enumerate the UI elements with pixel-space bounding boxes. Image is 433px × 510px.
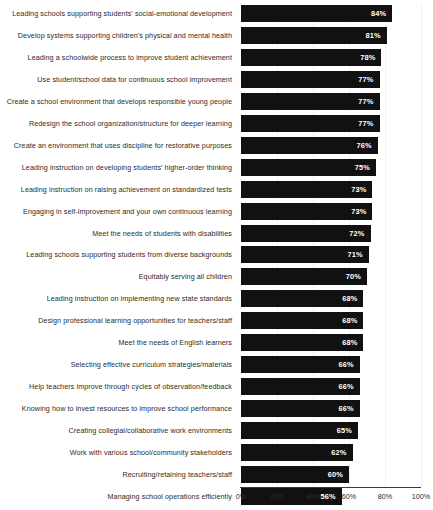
category-label: Engaging in self-improvement and your ow… (0, 203, 232, 220)
bar-track: 65% (241, 422, 421, 439)
bar-track: 71% (241, 246, 421, 263)
bar-row: Creating collegial/collaborative work en… (0, 422, 433, 439)
category-label: Equitably serving all children (0, 268, 232, 285)
bar-value-label: 70% (339, 268, 361, 285)
bar-value-label: 66% (332, 400, 354, 417)
category-label: Use student/school data for continuous s… (0, 71, 232, 88)
bar-row: Leading a schoolwide process to improve … (0, 49, 433, 66)
bar-value-label: 73% (344, 203, 366, 220)
bar-row: Redesign the school organization/structu… (0, 115, 433, 132)
bar-value-label: 78% (353, 49, 375, 66)
bar-row: Design professional learning opportuniti… (0, 312, 433, 329)
category-label: Create an environment that uses discipli… (0, 137, 232, 154)
bar-row: Recruiting/retaining teachers/staff60% (0, 466, 433, 483)
bar-row: Create a school environment that develop… (0, 93, 433, 110)
bar-value-label: 60% (321, 466, 343, 483)
category-label: Create a school environment that develop… (0, 93, 232, 110)
bar-track: 66% (241, 356, 421, 373)
x-axis-tick-labels: 0%20%40%60%80%100% (0, 492, 433, 506)
category-label: Redesign the school organization/structu… (0, 115, 232, 132)
bar-row: Selecting effective curriculum strategie… (0, 356, 433, 373)
bar-row: Meet the needs of English learners68% (0, 334, 433, 351)
bar-row: Engaging in self-improvement and your ow… (0, 203, 433, 220)
bar-track: 62% (241, 444, 421, 461)
category-label: Leading instruction on developing studen… (0, 159, 232, 176)
bar-row: Leading schools supporting students' soc… (0, 5, 433, 22)
bar-track: 77% (241, 93, 421, 110)
category-label: Design professional learning opportuniti… (0, 312, 232, 329)
bar-value-label: 68% (335, 334, 357, 351)
x-tick-label: 60% (329, 492, 369, 501)
bar-row: Leading schools supporting students from… (0, 246, 433, 263)
bar-row: Leading instruction on developing studen… (0, 159, 433, 176)
bar-value-label: 77% (352, 71, 374, 88)
category-label: Leading instruction on implementing new … (0, 290, 232, 307)
category-label: Selecting effective curriculum strategie… (0, 356, 232, 373)
bar-row: Meet the needs of students with disabili… (0, 225, 433, 242)
category-label: Develop systems supporting children's ph… (0, 27, 232, 44)
bar-value-label: 68% (335, 290, 357, 307)
bar-track: 72% (241, 225, 421, 242)
category-label: Meet the needs of English learners (0, 334, 232, 351)
bar-row: Equitably serving all children70% (0, 268, 433, 285)
category-label: Help teachers improve through cycles of … (0, 378, 232, 395)
category-label: Leading schools supporting students from… (0, 246, 232, 263)
bar-value-label: 77% (352, 115, 374, 132)
bar-track: 84% (241, 5, 421, 22)
bar-track: 60% (241, 466, 421, 483)
bar-value-label: 81% (359, 27, 381, 44)
bar-value-label: 65% (330, 422, 352, 439)
bar-track: 68% (241, 290, 421, 307)
category-label: Recruiting/retaining teachers/staff (0, 466, 232, 483)
category-label: Meet the needs of students with disabili… (0, 225, 232, 242)
category-label: Leading a schoolwide process to improve … (0, 49, 232, 66)
bar-track: 66% (241, 378, 421, 395)
bar-track: 81% (241, 27, 421, 44)
bar-track: 73% (241, 181, 421, 198)
category-label: Leading schools supporting students' soc… (0, 5, 232, 22)
x-tick-label: 20% (257, 492, 297, 501)
bar-track: 76% (241, 137, 421, 154)
bar-row: Work with various school/community stake… (0, 444, 433, 461)
horizontal-bar-chart: Leading schools supporting students' soc… (0, 0, 433, 510)
bar-track: 66% (241, 400, 421, 417)
category-label: Work with various school/community stake… (0, 444, 232, 461)
category-label: Creating collegial/collaborative work en… (0, 422, 232, 439)
bar-track: 78% (241, 49, 421, 66)
bar-value-label: 72% (343, 225, 365, 242)
bar-row: Create an environment that uses discipli… (0, 137, 433, 154)
bar-value-label: 84% (364, 5, 386, 22)
x-tick-label: 0% (221, 492, 261, 501)
category-label: Leading instruction on raising achieveme… (0, 181, 232, 198)
bar-track: 70% (241, 268, 421, 285)
bar-track: 77% (241, 115, 421, 132)
bar-value-label: 71% (341, 246, 363, 263)
bar-row: Knowing how to invest resources to impro… (0, 400, 433, 417)
category-label: Knowing how to invest resources to impro… (0, 400, 232, 417)
bar-value-label: 68% (335, 312, 357, 329)
bar-value-label: 66% (332, 378, 354, 395)
bar-track: 75% (241, 159, 421, 176)
x-tick-label: 100% (401, 492, 433, 501)
bar-value-label: 66% (332, 356, 354, 373)
bar-value-label: 75% (348, 159, 370, 176)
bar-value-label: 76% (350, 137, 372, 154)
bar-track: 77% (241, 71, 421, 88)
bar-track: 73% (241, 203, 421, 220)
bar-value-label: 77% (352, 93, 374, 110)
bar-row: Develop systems supporting children's ph… (0, 27, 433, 44)
bar-row: Leading instruction on raising achieveme… (0, 181, 433, 198)
bar-track: 68% (241, 334, 421, 351)
bar-row: Use student/school data for continuous s… (0, 71, 433, 88)
bar-row: Help teachers improve through cycles of … (0, 378, 433, 395)
x-tick-label: 80% (365, 492, 405, 501)
bar-row: Leading instruction on implementing new … (0, 290, 433, 307)
x-tick-label: 40% (293, 492, 333, 501)
bar-track: 68% (241, 312, 421, 329)
bar-value-label: 73% (344, 181, 366, 198)
bar-value-label: 62% (325, 444, 347, 461)
